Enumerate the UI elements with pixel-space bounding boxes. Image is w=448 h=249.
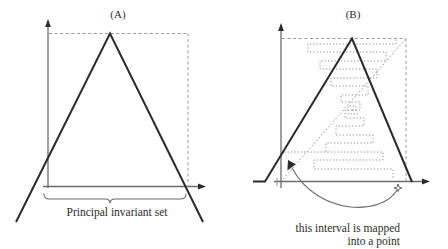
panel-b-label: (B)	[346, 8, 361, 21]
panel-b-caption-line1: this interval is mapped	[296, 222, 401, 235]
panel-a-brace-label: Principal invariant set	[67, 206, 169, 219]
panel-b-caption-line2: into a point	[348, 235, 401, 248]
panel-a-label: (A)	[110, 8, 126, 21]
figure-canvas: (A) Principal invariant set (B)	[0, 0, 448, 249]
